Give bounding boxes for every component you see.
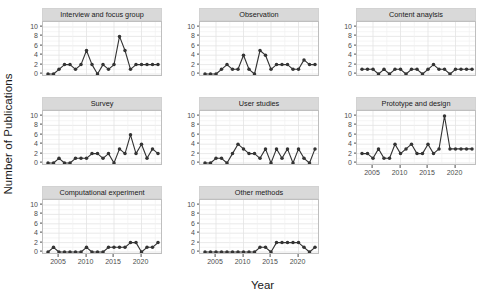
data-point xyxy=(448,72,452,76)
x-tick-mark xyxy=(399,165,400,168)
data-point xyxy=(220,68,224,72)
data-point xyxy=(79,63,83,67)
data-point xyxy=(437,147,441,151)
plot-panel xyxy=(199,199,319,254)
y-tick-label: 10 xyxy=(187,201,195,208)
data-point xyxy=(107,246,111,250)
x-tick-label: 2010 xyxy=(78,258,94,265)
data-point xyxy=(247,68,251,72)
data-point xyxy=(448,147,452,151)
data-point xyxy=(264,53,268,57)
data-point xyxy=(443,114,447,118)
data-point xyxy=(134,241,138,245)
data-point xyxy=(101,63,105,67)
data-point xyxy=(79,157,83,161)
y-tick-label: 2 xyxy=(348,60,352,67)
x-tick-label: 2020 xyxy=(133,258,149,265)
x-tick-mark xyxy=(58,254,59,257)
data-point xyxy=(118,246,122,250)
data-point xyxy=(371,68,375,72)
data-point xyxy=(432,152,436,156)
y-axis: 0246810 xyxy=(332,21,356,76)
data-point xyxy=(454,147,458,151)
data-point xyxy=(421,152,425,156)
data-point xyxy=(313,63,317,67)
y-tick-label: 8 xyxy=(191,210,195,217)
x-tick-mark xyxy=(85,254,86,257)
data-point xyxy=(123,152,127,156)
plot-panel xyxy=(199,110,319,165)
facet-strip-label: Content anaylsis xyxy=(356,8,476,21)
facet-grid: Interview and focus group0246810Observat… xyxy=(18,8,491,274)
x-tick-mark xyxy=(372,165,373,168)
data-point xyxy=(258,246,262,250)
y-tick-label: 6 xyxy=(191,219,195,226)
facet-panel-3: Survey0246810 xyxy=(18,97,162,181)
x-axis: 2005201020152020 xyxy=(42,254,162,270)
data-point xyxy=(269,161,273,165)
x-tick-mark xyxy=(454,165,455,168)
y-axis: 0246810 xyxy=(175,199,199,254)
x-axis: 2005201020152020 xyxy=(199,254,319,270)
data-point xyxy=(151,147,155,151)
data-point xyxy=(151,246,155,250)
y-tick-label: 6 xyxy=(348,41,352,48)
data-point xyxy=(145,63,149,67)
y-tick-label: 8 xyxy=(191,121,195,128)
facet-panel-6: Computational experiment0246810200520102… xyxy=(18,186,162,270)
plot-panel xyxy=(356,110,476,165)
data-point xyxy=(459,68,463,72)
data-point xyxy=(404,72,408,76)
x-tick-label: 2020 xyxy=(290,258,306,265)
data-point xyxy=(90,63,94,67)
facet-panel-0: Interview and focus group0246810 xyxy=(18,8,162,92)
data-point xyxy=(112,63,116,67)
data-point xyxy=(308,161,312,165)
data-point xyxy=(156,63,160,67)
data-point xyxy=(454,68,458,72)
y-tick-label: 6 xyxy=(348,130,352,137)
y-tick-label: 8 xyxy=(191,32,195,39)
data-point xyxy=(280,241,284,245)
facet-row: Survey0246810User studies0246810Prototyp… xyxy=(18,97,491,181)
data-point xyxy=(57,157,61,161)
data-point xyxy=(371,157,375,161)
facet-strip-label: User studies xyxy=(199,97,319,110)
facet-strip-label: Prototype and design xyxy=(356,97,476,110)
y-tick-label: 4 xyxy=(34,140,38,147)
data-point xyxy=(46,161,50,165)
y-axis: 0246810 xyxy=(175,21,199,76)
x-tick-label: 2005 xyxy=(207,258,223,265)
data-point xyxy=(112,246,116,250)
y-tick-label: 8 xyxy=(34,32,38,39)
x-tick-label: 2010 xyxy=(392,169,408,176)
data-point xyxy=(459,147,463,151)
data-point xyxy=(253,72,257,76)
facet-row: Computational experiment0246810200520102… xyxy=(18,186,491,270)
y-tick-label: 4 xyxy=(348,140,352,147)
y-tick-label: 4 xyxy=(34,229,38,236)
y-tick-label: 10 xyxy=(187,23,195,30)
facet-panel-1: Observation0246810 xyxy=(175,8,319,92)
y-axis: 0246810 xyxy=(18,21,42,76)
x-axis-title-text: Year xyxy=(251,279,274,291)
data-point xyxy=(302,58,306,62)
data-point xyxy=(242,147,246,151)
data-point xyxy=(280,63,284,67)
data-point xyxy=(465,147,469,151)
data-point xyxy=(68,63,72,67)
facet-strip-label: Interview and focus group xyxy=(42,8,162,21)
data-point xyxy=(236,68,240,72)
x-tick-label: 2005 xyxy=(364,169,380,176)
data-point xyxy=(313,246,317,250)
y-tick-label: 4 xyxy=(191,140,195,147)
y-axis: 0246810 xyxy=(18,110,42,165)
y-axis: 0246810 xyxy=(18,199,42,254)
plot-panel xyxy=(42,199,162,254)
y-tick-label: 2 xyxy=(34,60,38,67)
data-point xyxy=(291,68,295,72)
facet-chart-figure: Number of Publications Interview and foc… xyxy=(0,0,491,298)
facet-strip-label: Observation xyxy=(199,8,319,21)
data-point xyxy=(140,142,144,146)
data-point xyxy=(286,63,290,67)
